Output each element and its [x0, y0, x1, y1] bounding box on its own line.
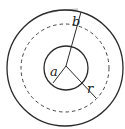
label-r: r: [87, 81, 94, 96]
label-b: b: [72, 14, 80, 29]
concentric-circles-diagram: b a r: [0, 0, 125, 129]
label-a: a: [50, 64, 58, 79]
